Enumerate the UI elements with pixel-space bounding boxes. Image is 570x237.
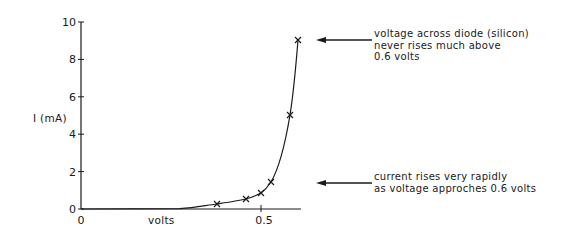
annotation-bottom: current rises very rapidly as voltage ap… [374, 171, 536, 194]
annotation-top: voltage across diode (silicon) never ris… [374, 28, 529, 63]
x-axis-label: volts [148, 214, 175, 226]
y-axis-label: I (mA) [33, 112, 67, 124]
annotation-bottom-line-1: current rises very rapidly [374, 171, 536, 183]
arrow-bottom [316, 180, 372, 186]
y-tick-label-4: 4 [69, 128, 76, 141]
arrow-top [316, 37, 372, 43]
y-tick-label-0: 0 [69, 203, 76, 216]
annotation-top-line-2: never rises much above [374, 40, 529, 52]
y-tick-label-10: 10 [62, 16, 76, 29]
x-tick-label-0.5: 0.5 [255, 214, 273, 227]
x-tick-label-0: 0 [78, 214, 85, 227]
annotation-bottom-line-2: as voltage approches 0.6 volts [374, 183, 536, 195]
annotation-top-line-1: voltage across diode (silicon) [374, 28, 529, 40]
data-point-markers [214, 37, 301, 207]
annotation-top-line-3: 0.6 volts [374, 51, 529, 63]
y-tick-label-6: 6 [69, 91, 76, 104]
iv-curve [81, 40, 298, 209]
y-tick-label-2: 2 [69, 166, 76, 179]
y-tick-label-8: 8 [69, 53, 76, 66]
